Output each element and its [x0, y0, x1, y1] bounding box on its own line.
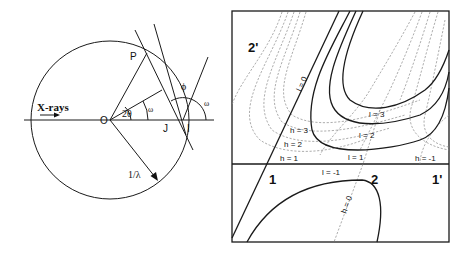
label-j: J	[163, 123, 168, 134]
label-h3: h = 3	[290, 126, 309, 135]
label-phi: ϕ	[181, 81, 186, 92]
label-l3: l = 3	[369, 110, 385, 119]
label-l1: l = 1	[348, 153, 364, 162]
label-h0: h = 0	[339, 194, 354, 215]
label-region-2: 2	[371, 172, 378, 187]
label-xrays: X-rays	[37, 101, 69, 113]
label-p: P	[130, 51, 137, 62]
l1-curve	[311, 11, 449, 150]
l3-curve	[343, 11, 449, 108]
label-l2: l = 2	[359, 131, 375, 140]
label-radius: 1/λ	[128, 169, 141, 180]
label-2theta: 2θ	[122, 108, 132, 119]
label-lm1: l = -1	[322, 168, 341, 177]
label-region-1: 1	[269, 172, 276, 187]
label-h1: h = 1	[280, 154, 299, 163]
lm1-curve	[247, 180, 381, 242]
label-hm1: h = -1	[415, 154, 436, 163]
lattice-diagram: 2' 1 2 1' l = 0 l = 3 l = 2 l = 1 l = -1…	[232, 11, 449, 242]
label-omega-inner: ω	[148, 105, 153, 114]
ewald-diagram: X-rays O P 2θ ω J I ϕ ω 1/λ	[24, 24, 214, 199]
xray-arrowhead-icon	[54, 113, 60, 118]
label-region-1prime: 1'	[432, 172, 442, 187]
line-i-up	[183, 57, 208, 120]
label-h2: h = 2	[284, 140, 303, 149]
h-dashed-curves-right	[320, 12, 449, 164]
label-omega-outer: ω	[204, 99, 209, 108]
h-dashed-curves-left	[232, 12, 420, 151]
label-o: O	[100, 115, 108, 126]
label-i: I	[187, 123, 190, 134]
label-region-2prime: 2'	[248, 40, 258, 55]
